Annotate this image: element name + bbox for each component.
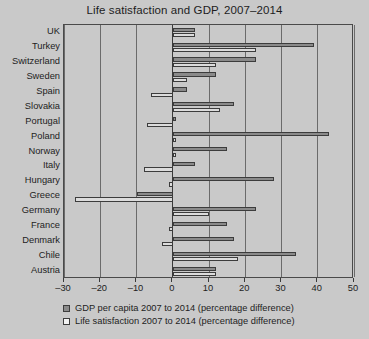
bar-group [64, 174, 352, 189]
bar [173, 28, 195, 32]
bar-group [64, 40, 352, 55]
y-axis-label: Norway [0, 146, 60, 156]
bar [173, 117, 177, 121]
y-axis-label: Slovakia [0, 101, 60, 111]
x-axis-tick [208, 278, 209, 282]
x-axis-tick [99, 278, 100, 282]
bar-group [64, 70, 352, 85]
legend-label-gdp: GDP per capita 2007 to 2014 (percentage … [75, 303, 294, 314]
legend-swatch-gdp-icon [63, 305, 70, 312]
bar [173, 132, 329, 136]
bar [173, 153, 177, 157]
bar [173, 222, 227, 226]
legend-swatch-life-satisfaction-icon [63, 318, 70, 325]
bar [162, 242, 173, 246]
bar [147, 123, 172, 127]
y-axis-labels: UKTurkeySwitzerlandSwedenSpainSlovakiaPo… [0, 24, 60, 278]
bar [173, 257, 238, 261]
bar-group [64, 249, 352, 264]
x-axis-tick [171, 278, 172, 282]
bar [137, 192, 173, 196]
y-axis-label: Spain [0, 86, 60, 96]
x-axis-label: –10 [128, 283, 144, 294]
bar [173, 237, 235, 241]
y-axis-label: Portugal [0, 116, 60, 126]
legend-item-life-satisfaction: Life satisfaction 2007 to 2014 (percenta… [63, 315, 363, 328]
bar [173, 138, 177, 142]
y-axis-label: Switzerland [0, 56, 60, 66]
y-axis-label: Italy [0, 160, 60, 170]
chart-title: Life satisfaction and GDP, 2007–2014 [0, 4, 369, 16]
bar [151, 93, 173, 97]
x-axis-label: 40 [312, 283, 322, 294]
bar-group [64, 204, 352, 219]
bar [173, 267, 217, 271]
y-axis-label: UK [0, 26, 60, 36]
legend-item-gdp: GDP per capita 2007 to 2014 (percentage … [63, 302, 363, 315]
y-axis-label: Greece [0, 190, 60, 200]
bar [173, 78, 188, 82]
bar [173, 43, 314, 47]
x-axis-tick [353, 278, 354, 282]
x-axis-label: –30 [55, 283, 71, 294]
y-axis-label: Turkey [0, 41, 60, 51]
legend-label-life-satisfaction: Life satisfaction 2007 to 2014 (percenta… [75, 316, 295, 327]
bar [75, 197, 173, 201]
x-axis-labels: –30–20–1001020304050 [0, 283, 369, 297]
y-axis-label: Sweden [0, 71, 60, 81]
bar-group [64, 25, 352, 40]
bar-group [64, 189, 352, 204]
bar-group [64, 159, 352, 174]
bar [173, 72, 217, 76]
bar [173, 252, 296, 256]
bar [173, 87, 188, 91]
x-axis-label: 20 [239, 283, 249, 294]
y-axis-label: Denmark [0, 235, 60, 245]
x-axis-label: 0 [169, 283, 174, 294]
x-axis-label: 30 [275, 283, 285, 294]
bar [173, 108, 220, 112]
x-axis-tick [135, 278, 136, 282]
bar [173, 63, 217, 67]
bar [173, 272, 217, 276]
bar [173, 177, 275, 181]
bar-group [64, 234, 352, 249]
y-axis-label: France [0, 220, 60, 230]
bar-group [64, 85, 352, 100]
bar-group [64, 100, 352, 115]
bar-group [64, 55, 352, 70]
bar [169, 227, 173, 231]
y-axis-label: Hungary [0, 175, 60, 185]
y-axis-label: Germany [0, 205, 60, 215]
bar-group [64, 130, 352, 145]
x-axis-tick [316, 278, 317, 282]
y-axis-label: Chile [0, 250, 60, 260]
gridline-50 [354, 25, 355, 277]
bar [173, 57, 256, 61]
bar [173, 162, 195, 166]
x-axis-label: –20 [91, 283, 107, 294]
x-axis-label: 50 [348, 283, 358, 294]
bar [173, 102, 235, 106]
bar [169, 182, 173, 186]
bar [173, 33, 195, 37]
x-axis-label: 10 [203, 283, 213, 294]
bar [173, 212, 209, 216]
bar-group [64, 219, 352, 234]
chart-root: Life satisfaction and GDP, 2007–2014 UKT… [0, 0, 369, 339]
bar [173, 147, 227, 151]
chart-legend: GDP per capita 2007 to 2014 (percentage … [63, 302, 363, 328]
bar-group [64, 264, 352, 279]
x-axis-tick [280, 278, 281, 282]
plot-area [63, 24, 353, 278]
bar [144, 167, 173, 171]
x-axis-tick [244, 278, 245, 282]
x-axis-tick [63, 278, 64, 282]
bar-group [64, 115, 352, 130]
y-axis-label: Poland [0, 131, 60, 141]
bar [173, 207, 256, 211]
bar [173, 48, 256, 52]
y-axis-label: Austria [0, 265, 60, 275]
bar-group [64, 145, 352, 160]
